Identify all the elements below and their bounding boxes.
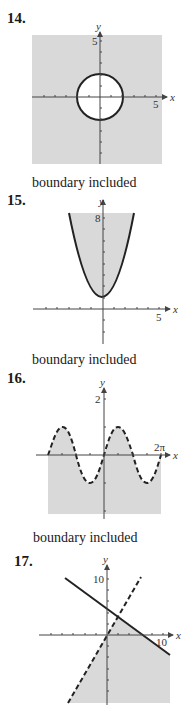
y-tick-label: 5 [92, 35, 98, 47]
y-tick-label: 8 [95, 212, 101, 224]
graph-16: y x 2 2π [36, 376, 178, 519]
graph-15: y x 8 5 [33, 195, 178, 344]
x-tick-label: 10 [156, 636, 168, 648]
x-tick-label: 5 [156, 311, 162, 323]
x-axis-label: x [175, 629, 181, 641]
x-tick-label: 2π [154, 441, 166, 453]
y-tick-label: 2 [95, 393, 101, 405]
y-axis-label: y [98, 195, 104, 207]
graphs-canvas: y x 5 5 y x 8 5 [0, 0, 183, 709]
x-axis-label: x [172, 449, 178, 461]
x-axis-label: x [169, 91, 175, 103]
y-tick-label: 10 [93, 573, 105, 585]
graph-14: y x 5 5 [32, 20, 175, 164]
y-axis-label: y [99, 376, 105, 388]
x-axis-label: x [172, 303, 178, 315]
x-tick-label: 5 [153, 98, 159, 110]
y-axis-label: y [102, 553, 108, 565]
y-axis-label: y [95, 20, 101, 32]
graph-17: y x 10 10 [39, 553, 181, 705]
